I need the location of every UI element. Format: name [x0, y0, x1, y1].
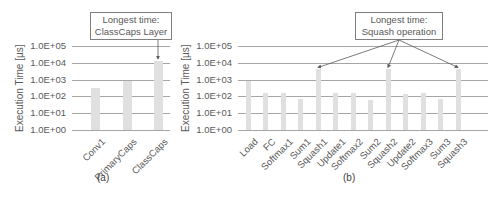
- callout-arrows: [0, 0, 494, 198]
